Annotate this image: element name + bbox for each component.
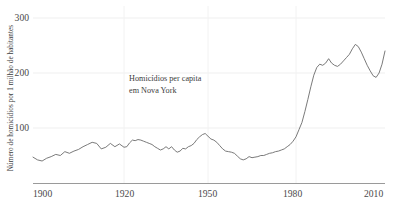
y-axis-title: Número de homicídios por 1 milhão de hab… (4, 8, 18, 188)
y-tick-label-300-anchor: 300 (15, 13, 29, 23)
x-axis-line (33, 183, 385, 184)
chart-annotation-line-1: Homicídios per capita (129, 73, 201, 85)
homicide-rate-line (33, 44, 385, 161)
chart-svg (33, 6, 385, 183)
x-axis-tick-1950: 1950 (198, 188, 217, 199)
chart-annotation-line-2: em Nova York (129, 85, 201, 97)
chart-figure: Número de homicídios por 1 milhão de hab… (0, 0, 393, 212)
x-axis-tick-1900: 1900 (33, 188, 52, 199)
horizontal-gridlines (33, 18, 385, 128)
x-axis-tick-1980: 1980 (283, 188, 302, 199)
y-tick-label-100-anchor: 100 (15, 123, 29, 133)
chart-annotation: Homicídios per capita em Nova York (129, 73, 201, 96)
plot-area: 300 200 100 (33, 6, 385, 183)
x-axis-tick-2010: 2010 (364, 188, 383, 199)
y-tick-label-200-anchor: 200 (15, 68, 29, 78)
x-axis-tick-1920: 1920 (115, 188, 134, 199)
